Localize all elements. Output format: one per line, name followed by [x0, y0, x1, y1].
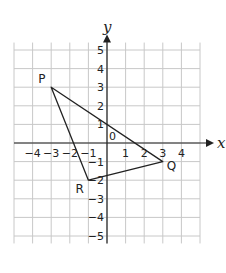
svg-text:0: 0	[109, 130, 116, 143]
svg-text:−5: −5	[88, 230, 104, 243]
svg-text:−3: −3	[88, 193, 104, 206]
x-axis-arrow-icon	[206, 139, 214, 147]
y-axis-arrow-icon	[103, 35, 111, 43]
svg-text:Q: Q	[167, 159, 176, 173]
svg-text:3: 3	[159, 147, 166, 160]
svg-text:−1: −1	[88, 156, 104, 169]
svg-text:−4: −4	[88, 211, 104, 224]
svg-text:1: 1	[122, 147, 129, 160]
svg-text:4: 4	[97, 63, 104, 76]
svg-text:−3: −3	[43, 147, 59, 160]
x-axis-label: x	[217, 134, 226, 152]
svg-text:R: R	[75, 182, 83, 196]
svg-text:−2: −2	[88, 174, 104, 187]
svg-text:5: 5	[97, 44, 104, 57]
svg-text:P: P	[38, 72, 45, 86]
svg-text:4: 4	[178, 147, 185, 160]
y-axis-label: y	[102, 18, 112, 36]
svg-text:3: 3	[97, 81, 104, 94]
svg-text:2: 2	[97, 100, 104, 113]
coordinate-grid-diagram: −4−3−2−1123454321−1−2−3−4−50 x y PQR	[0, 0, 226, 273]
svg-text:−4: −4	[24, 147, 40, 160]
